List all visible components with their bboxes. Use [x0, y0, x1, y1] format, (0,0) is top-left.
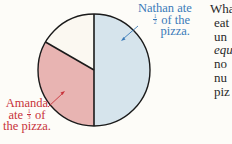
side-text-line: un [210, 30, 232, 44]
fraction-one-third: 1 3 [27, 109, 31, 120]
figure: Nathan ate 1 2 of the pizza. Amanda ate … [0, 0, 232, 144]
side-text-line: eat [210, 16, 232, 30]
nathan-label-line3: pizza. [138, 26, 190, 38]
nathan-annotation: Nathan ate 1 2 of the pizza. [138, 3, 190, 38]
side-paragraph: Wha eat un equ no nu piz [210, 2, 232, 99]
side-text-line: equ [210, 43, 232, 57]
side-text-line: no [210, 57, 232, 71]
side-text-line: nu [210, 71, 232, 85]
fraction-one-half: 1 2 [153, 14, 157, 25]
amanda-annotation: Amanda ate 1 3 of the pizza. [0, 98, 54, 133]
side-text-line: Wha [210, 2, 232, 16]
side-text-line: piz [210, 85, 232, 99]
amanda-label-line3: the pizza. [0, 121, 54, 133]
